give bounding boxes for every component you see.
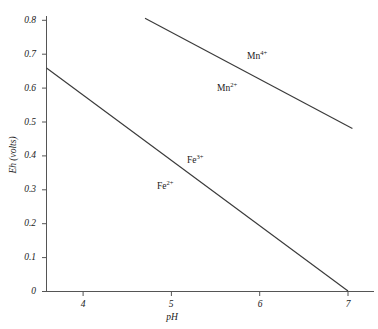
- x-tick-label-7: 7: [336, 299, 360, 309]
- annotation-fe2-text: Fe: [157, 181, 167, 191]
- y-tick-label-6: 0.6: [8, 83, 36, 93]
- annotation-mn4: Mn4+: [247, 49, 267, 61]
- annotation-fe3-charge: 3+: [197, 153, 204, 160]
- annotation-mn2-charge: 2+: [230, 81, 237, 88]
- annotation-fe2-charge: 2+: [167, 179, 174, 186]
- y-tick-label-7: 0.7: [8, 49, 36, 59]
- x-tick-label-5: 5: [159, 299, 183, 309]
- y-tick-label-1: 0.1: [8, 252, 36, 262]
- y-tick-label-0: 0: [8, 286, 36, 296]
- annotation-fe3-text: Fe: [187, 155, 197, 165]
- x-tick-label-6: 6: [248, 299, 272, 309]
- annotation-fe3: Fe3+: [187, 153, 203, 165]
- x-tick-label-4: 4: [71, 299, 95, 309]
- y-tick-label-2: 0.2: [8, 218, 36, 228]
- y-tick-label-8: 0.8: [8, 15, 36, 25]
- x-axis-title: pH: [150, 312, 194, 322]
- annotation-mn4-text: Mn: [247, 51, 260, 61]
- annotation-fe2: Fe2+: [157, 179, 173, 191]
- annotation-mn2-text: Mn: [217, 83, 230, 93]
- annotation-mn4-charge: 4+: [260, 49, 267, 56]
- y-axis-ticks: [42, 20, 46, 291]
- y-axis-title: Eh (volts): [8, 120, 18, 190]
- series-line-mn: [145, 18, 352, 128]
- chart-figure: 0 0.1 0.2 0.3 0.4 0.5 0.6 0.7 0.8 4 5 6 …: [0, 0, 378, 329]
- annotation-mn2: Mn2+: [217, 81, 237, 93]
- x-axis-ticks: [83, 292, 348, 297]
